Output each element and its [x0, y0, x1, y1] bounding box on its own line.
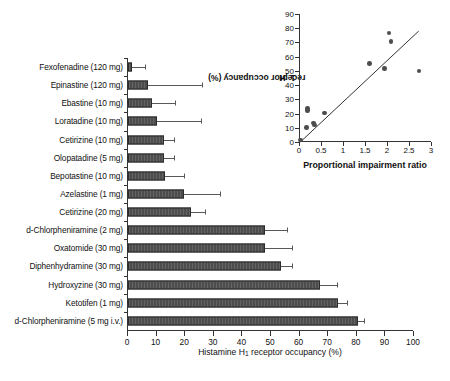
error-bar-line	[130, 67, 145, 68]
inset-y-tick-label: 80	[285, 24, 294, 33]
error-bar-cap	[364, 318, 365, 323]
error-bar-cap	[220, 191, 221, 196]
inset-y-tick	[295, 57, 299, 58]
inset-x-tick-label: 1.5	[359, 146, 370, 155]
inset-x-tick-label: 2.5	[403, 146, 414, 155]
y-axis-tick	[124, 221, 128, 222]
inset-x-tick-label: 1	[341, 146, 345, 155]
x-axis-tick	[299, 331, 300, 336]
x-axis-tick-label: 30	[208, 337, 217, 347]
bar-plot-cell	[128, 294, 440, 312]
bar-rect	[128, 81, 148, 90]
x-axis-tick	[156, 331, 157, 336]
x-axis-title-suffix: receptor occupancy (%)	[249, 347, 342, 357]
x-axis-tick-label: 90	[380, 337, 389, 347]
bar-category-label: Epinastine (120 mg)	[51, 80, 123, 90]
y-axis-tick	[124, 312, 128, 313]
bar-category-label: d-Chlorpheniramine (2 mg)	[26, 225, 123, 235]
x-axis-tick-label: 80	[351, 337, 360, 347]
error-bar-cap	[337, 282, 338, 287]
x-axis-tick	[413, 331, 414, 336]
y-axis-tick	[124, 131, 128, 132]
x-axis-tick-label: 10	[151, 337, 160, 347]
error-bar-cap	[174, 137, 175, 142]
error-bar-cap	[175, 101, 176, 106]
y-axis-tick	[124, 294, 128, 295]
bar-rect	[128, 244, 265, 253]
y-axis-tick	[124, 58, 128, 59]
bar-plot-cell	[128, 203, 440, 221]
bar-rect	[128, 262, 281, 271]
bar-rect	[128, 226, 265, 235]
y-axis-tick	[124, 239, 128, 240]
inset-x-axis-title: Proportional impairment ratio	[299, 160, 431, 170]
inset-y-tick-label: 0	[290, 138, 294, 147]
bar-row: Hydroxyzine (30 mg)	[0, 276, 450, 294]
inset-y-tick	[295, 85, 299, 86]
bar-rect	[128, 171, 165, 180]
inset-y-tick	[295, 42, 299, 43]
bar-rect	[128, 189, 184, 198]
bar-row: Oxatomide (30 mg)	[0, 239, 450, 257]
error-bar-cap	[174, 155, 175, 160]
error-bar-cap	[292, 246, 293, 251]
scatter-point	[367, 61, 372, 66]
bar-rect	[128, 208, 191, 217]
bar-rect	[128, 280, 320, 289]
bar-row: Diphenhydramine (30 mg)	[0, 257, 450, 275]
inset-plot-area: 010203040506070809000.511.522.53	[299, 14, 431, 142]
error-bar-line	[139, 85, 202, 86]
bar-chart-y-axis	[127, 58, 128, 330]
x-axis-tick	[127, 331, 128, 336]
bar-rect	[128, 63, 132, 72]
bar-category-label: Cetirizine (20 mg)	[59, 207, 123, 217]
inset-x-tick-label: 2	[385, 146, 389, 155]
inset-trendline	[299, 14, 431, 142]
x-axis-tick-label: 60	[294, 337, 303, 347]
error-bar-cap	[184, 173, 185, 178]
x-axis-tick-label: 70	[323, 337, 332, 347]
x-axis-tick-label: 50	[265, 337, 274, 347]
error-bar-cap	[292, 264, 293, 269]
bar-rect	[128, 153, 164, 162]
y-axis-tick	[124, 276, 128, 277]
bar-category-label: Oxatomide (30 mg)	[54, 243, 123, 253]
y-axis-tick	[124, 257, 128, 258]
error-bar-cap	[145, 65, 146, 70]
y-axis-tick	[124, 76, 128, 77]
bar-chart-x-axis: 0102030405060708090100	[127, 330, 413, 331]
scatter-point	[312, 123, 317, 128]
bar-category-label: Cetirizine (10 mg)	[59, 135, 123, 145]
inset-y-tick-label: 70	[285, 38, 294, 47]
inset-x-tick-label: 0.5	[315, 146, 326, 155]
error-bar-cap	[347, 300, 348, 305]
scatter-point	[382, 66, 387, 71]
bar-row: d-Chlorpheniramine (5 mg i.v.)	[0, 312, 450, 330]
scatter-point	[298, 138, 303, 143]
inset-y-axis-title: H1 receptor occupancy (%)	[241, 14, 253, 142]
inset-x-tick-label: 3	[429, 146, 433, 155]
x-axis-tick-label: 0	[125, 337, 130, 347]
bar-plot-cell	[128, 312, 440, 330]
figure-container: Fexofenadine (120 mg)Epinastine (120 mg)…	[0, 0, 450, 381]
bar-rect	[128, 117, 157, 126]
bar-category-label: Diphenhydramine (30 mg)	[29, 261, 123, 271]
inset-y-tick	[295, 114, 299, 115]
y-axis-tick	[124, 203, 128, 204]
scatter-point	[304, 125, 309, 130]
inset-y-tick-label: 60	[285, 52, 294, 61]
inset-y-tick	[295, 99, 299, 100]
x-axis-tick	[213, 331, 214, 336]
inset-y-tick-label: 90	[285, 10, 294, 19]
bar-plot-cell	[128, 221, 440, 239]
error-bar-cap	[205, 210, 206, 215]
bar-category-label: Hydroxyzine (30 mg)	[48, 280, 123, 290]
bar-chart-x-axis-title: Histamine H1 receptor occupancy (%)	[127, 347, 413, 357]
inset-y-tick-label: 20	[285, 109, 294, 118]
x-axis-title-prefix: Histamine H	[198, 347, 245, 357]
x-axis-tick	[270, 331, 271, 336]
bar-rect	[128, 99, 152, 108]
bar-category-label: Olopatadine (5 mg)	[54, 153, 123, 163]
x-axis-tick	[184, 331, 185, 336]
y-axis-tick	[124, 94, 128, 95]
